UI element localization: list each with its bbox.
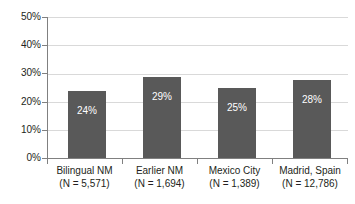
x-axis-labels: Bilingual NM (N = 5,571) Earlier NM (N =… xyxy=(47,159,348,204)
y-tick-label-20: 20% xyxy=(21,97,41,107)
y-tick-label-30: 30% xyxy=(21,68,41,78)
y-tick-label-50: 50% xyxy=(21,12,41,22)
x-category-n-earlier-nm: (N = 1,694) xyxy=(122,177,197,190)
x-category-name-earlier-nm: Earlier NM xyxy=(122,164,197,177)
x-category-n-madrid-spain: (N = 12,786) xyxy=(272,177,348,190)
bar-mexico-city[interactable]: 25% xyxy=(218,88,256,159)
gridline-30 xyxy=(47,74,348,75)
x-category-name-bilingual-nm: Bilingual NM xyxy=(47,164,122,177)
x-category-name-madrid-spain: Madrid, Spain xyxy=(272,164,348,177)
bar-bilingual-nm[interactable]: 24% xyxy=(68,91,106,159)
gridline-40 xyxy=(47,45,348,46)
plot-area: 24% 29% 25% 28% xyxy=(47,17,348,159)
x-category-n-bilingual-nm: (N = 5,571) xyxy=(47,177,122,190)
bar-chart: 50% 40% 30% 20% 10% 0% 24% 29% 25% 28% xyxy=(0,0,355,204)
gridline-50 xyxy=(47,17,348,18)
x-category-name-mexico-city: Mexico City xyxy=(197,164,272,177)
y-axis-labels: 50% 40% 30% 20% 10% 0% xyxy=(0,0,46,204)
y-tick-label-10: 10% xyxy=(21,125,41,135)
y-axis-line xyxy=(47,17,48,159)
bar-earlier-nm[interactable]: 29% xyxy=(143,77,181,159)
bar-value-label-mexico-city: 25% xyxy=(218,102,256,113)
y-tick-label-40: 40% xyxy=(21,40,41,50)
bar-value-label-bilingual-nm: 24% xyxy=(68,105,106,116)
y-tick-label-0: 0% xyxy=(27,153,41,163)
bar-value-label-madrid-spain: 28% xyxy=(293,94,331,105)
x-category-madrid-spain: Madrid, Spain (N = 12,786) xyxy=(272,164,348,190)
x-category-earlier-nm: Earlier NM (N = 1,694) xyxy=(122,164,197,190)
bar-value-label-earlier-nm: 29% xyxy=(143,91,181,102)
bar-madrid-spain[interactable]: 28% xyxy=(293,80,331,159)
x-category-bilingual-nm: Bilingual NM (N = 5,571) xyxy=(47,164,122,190)
x-category-n-mexico-city: (N = 1,389) xyxy=(197,177,272,190)
x-category-mexico-city: Mexico City (N = 1,389) xyxy=(197,164,272,190)
